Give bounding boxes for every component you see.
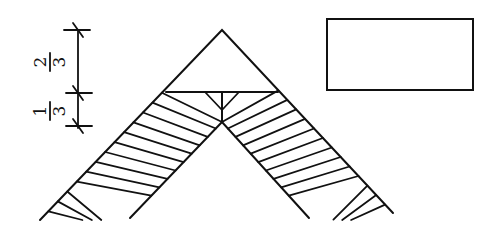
hatch-line xyxy=(124,132,192,154)
fraction-upper-numerator: 2 xyxy=(30,57,50,68)
fraction-upper-denominator: 3 xyxy=(49,57,69,68)
hatch-line xyxy=(205,92,222,110)
hatch-line xyxy=(153,103,216,129)
hatch-line xyxy=(281,167,349,188)
hatch-line xyxy=(258,138,323,162)
hatch-line xyxy=(266,148,332,171)
hatch-line xyxy=(162,93,222,122)
chevron-section xyxy=(40,30,393,220)
dimension-tick-middle xyxy=(66,86,92,100)
fraction-two-thirds: 2 3 xyxy=(30,53,69,71)
hatch-line xyxy=(274,157,341,179)
hatch-line xyxy=(289,176,359,196)
hatch-line xyxy=(143,113,208,137)
dimension-tick-top xyxy=(64,23,90,37)
chevron-outer-edge xyxy=(40,30,393,220)
fraction-one-third: 1 3 xyxy=(30,102,69,120)
hatch-line xyxy=(236,109,297,136)
fraction-lower-numerator: 1 xyxy=(30,106,50,117)
hatch-line xyxy=(251,129,314,154)
hatch-line xyxy=(243,119,305,145)
chevron-inner-edge xyxy=(130,122,309,218)
dimension-tick-bottom xyxy=(66,119,92,133)
rectangle-symbol xyxy=(327,19,473,90)
hatching-right xyxy=(222,90,385,220)
hatch-line xyxy=(222,92,239,110)
hatch-line xyxy=(105,152,175,171)
hatch-line xyxy=(134,122,200,145)
hatch-line xyxy=(115,142,184,162)
hatch-line xyxy=(351,205,385,220)
diagram-canvas: 2 3 1 3 xyxy=(0,0,500,240)
fraction-lower-denominator: 3 xyxy=(49,106,69,117)
